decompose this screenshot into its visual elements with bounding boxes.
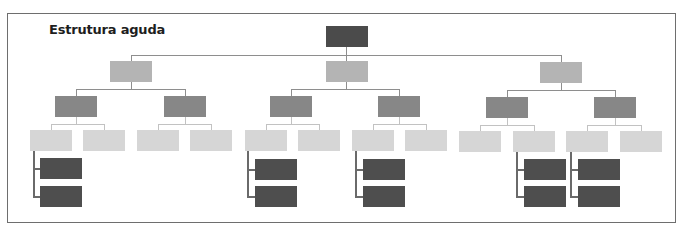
connector (570, 196, 578, 198)
level3-node (620, 131, 662, 152)
level4-node (363, 186, 405, 207)
level3-node (137, 130, 179, 151)
connector (247, 169, 255, 171)
connector (33, 168, 40, 170)
connector (185, 117, 186, 124)
connector (516, 196, 524, 198)
level2-node (270, 96, 312, 117)
level3-node (459, 131, 501, 152)
level4-node (578, 186, 620, 207)
connector (561, 55, 562, 62)
connector (33, 151, 35, 197)
connector (615, 90, 616, 97)
connector (76, 89, 186, 90)
level3-node (405, 130, 447, 151)
level1-node-left (110, 61, 152, 82)
connector (561, 83, 562, 90)
level4-node (363, 159, 405, 180)
root-node (326, 26, 368, 47)
connector (355, 169, 363, 171)
diagram-title: Estrutura aguda (49, 22, 165, 37)
connector (185, 89, 186, 96)
level3-node (352, 130, 394, 151)
connector (570, 169, 578, 171)
level3-node (513, 131, 555, 152)
connector (516, 152, 518, 198)
level3-node (30, 130, 72, 151)
connector (507, 90, 616, 91)
connector (247, 196, 255, 198)
connector (355, 151, 357, 198)
connector (399, 117, 400, 124)
level4-node (255, 186, 297, 207)
connector (33, 196, 40, 198)
connector (399, 89, 400, 96)
connector (587, 125, 642, 126)
level3-node (245, 130, 287, 151)
level2-node (486, 97, 528, 118)
connector (291, 89, 400, 90)
connector (516, 169, 524, 171)
connector (355, 196, 363, 198)
level4-node (40, 186, 82, 207)
level4-node (524, 186, 566, 207)
level4-node (524, 159, 566, 180)
level3-node (83, 130, 125, 151)
connector (346, 82, 347, 89)
level2-node (164, 96, 206, 117)
connector (131, 82, 132, 89)
connector (76, 89, 77, 96)
connector (291, 89, 292, 96)
level4-node (40, 158, 82, 179)
connector (291, 117, 292, 124)
level3-node (566, 131, 608, 152)
level1-node-center (326, 61, 368, 82)
connector (76, 117, 77, 124)
connector (507, 118, 508, 125)
connector (51, 124, 105, 125)
level2-node (594, 97, 636, 118)
connector (507, 90, 508, 97)
connector (615, 118, 616, 125)
connector (158, 124, 212, 125)
connector (247, 151, 249, 198)
level3-node (298, 130, 340, 151)
connector (346, 47, 347, 55)
connector (266, 124, 320, 125)
level2-node (55, 96, 97, 117)
level2-node (378, 96, 420, 117)
connector (480, 125, 535, 126)
connector (570, 152, 572, 198)
level3-node (190, 130, 232, 151)
level1-node-right (540, 62, 582, 83)
connector (373, 124, 427, 125)
level4-node (255, 159, 297, 180)
level4-node (578, 159, 620, 180)
